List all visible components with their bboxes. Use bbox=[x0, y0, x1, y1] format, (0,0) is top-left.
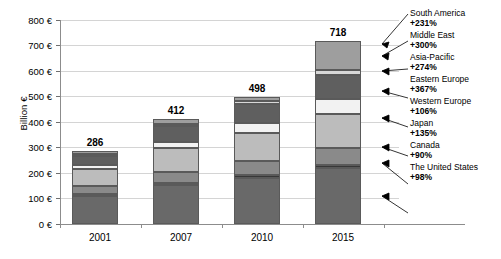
legend-growth: +367% bbox=[410, 84, 501, 94]
legend-label: Middle East bbox=[410, 30, 501, 40]
bar-segment[interactable] bbox=[315, 75, 361, 99]
y-tick-label-600: 600 € bbox=[8, 67, 52, 76]
bar-segment[interactable] bbox=[72, 156, 118, 165]
y-tick-label-200: 200 € bbox=[8, 169, 52, 178]
bar-segment[interactable] bbox=[153, 119, 199, 124]
bar-segment[interactable] bbox=[72, 194, 118, 196]
legend-item-eastern-europe: Eastern Europe +367% bbox=[410, 74, 501, 94]
bar-segment[interactable] bbox=[153, 185, 199, 224]
legend-label: Japan bbox=[410, 118, 501, 128]
legend-item-western-europe: Western Europe +106% bbox=[410, 96, 501, 116]
bar-segment[interactable] bbox=[315, 70, 361, 75]
bar-segment[interactable] bbox=[153, 148, 199, 171]
x-tick-mark bbox=[141, 224, 142, 228]
x-tick-mark bbox=[60, 224, 61, 228]
stacked-bar-chart: Billion € 800 € 700 € 600 € 500 € 400 € … bbox=[0, 0, 501, 259]
legend-item-middle-east: Middle East +300% bbox=[410, 30, 501, 50]
bar-segment[interactable] bbox=[72, 186, 118, 194]
bar-segment[interactable] bbox=[315, 165, 361, 169]
y-tick-label-0: 0 € bbox=[8, 220, 52, 229]
bar-segment[interactable] bbox=[153, 172, 199, 183]
x-label-2001: 2001 bbox=[65, 232, 135, 243]
bar-total-label-2010: 498 bbox=[234, 83, 280, 94]
y-tick-label-500: 500 € bbox=[8, 92, 52, 101]
legend-growth: +274% bbox=[410, 62, 501, 72]
x-tick-mark bbox=[222, 224, 223, 228]
legend-item-asia-pacific: Asia-Pacific +274% bbox=[410, 52, 501, 72]
legend-item-united-states: The United States +98% bbox=[410, 162, 501, 182]
bar-segment[interactable] bbox=[153, 183, 199, 185]
chart-legend: South America +231% Middle East +300% As… bbox=[410, 8, 501, 184]
legend-item-south-america: South America +231% bbox=[410, 8, 501, 28]
bar-segment[interactable] bbox=[234, 175, 280, 178]
bar-segment[interactable] bbox=[315, 168, 361, 224]
legend-growth: +300% bbox=[410, 40, 501, 50]
bar-segment[interactable] bbox=[153, 126, 199, 141]
legend-label: South America bbox=[410, 8, 501, 18]
x-tick-mark bbox=[384, 224, 385, 228]
y-tick-label-300: 300 € bbox=[8, 143, 52, 152]
bar-segment[interactable] bbox=[153, 124, 199, 127]
bar-segment[interactable] bbox=[72, 165, 118, 169]
x-axis-line bbox=[60, 224, 465, 225]
bar-total-label-2007: 412 bbox=[153, 105, 199, 116]
bar-segment[interactable] bbox=[234, 97, 280, 101]
bar-total-label-2001: 286 bbox=[72, 137, 118, 148]
y-tick-label-400: 400 € bbox=[8, 118, 52, 127]
legend-item-japan: Japan +135% bbox=[410, 118, 501, 138]
x-label-2015: 2015 bbox=[308, 232, 378, 243]
bar-segment[interactable] bbox=[72, 169, 118, 186]
legend-growth: +231% bbox=[410, 18, 501, 28]
legend-growth: +98% bbox=[410, 172, 501, 182]
bar-segment[interactable] bbox=[315, 41, 361, 70]
bar-segment[interactable] bbox=[234, 161, 280, 175]
y-tick-label-700: 700 € bbox=[8, 41, 52, 50]
plot-area: 286412498718 bbox=[61, 20, 399, 224]
legend-growth: +135% bbox=[410, 128, 501, 138]
legend-label: Canada bbox=[410, 140, 501, 150]
bar-segment[interactable] bbox=[234, 104, 280, 122]
bar-segment[interactable] bbox=[72, 151, 118, 154]
legend-label: Eastern Europe bbox=[410, 74, 501, 84]
bar-segment[interactable] bbox=[234, 123, 280, 134]
bar-segment[interactable] bbox=[315, 148, 361, 165]
y-tick-label-800: 800 € bbox=[8, 16, 52, 25]
x-label-2010: 2010 bbox=[227, 232, 297, 243]
x-tick-mark bbox=[303, 224, 304, 228]
x-label-2007: 2007 bbox=[146, 232, 216, 243]
legend-label: Asia-Pacific bbox=[410, 52, 501, 62]
bar-segment[interactable] bbox=[315, 99, 361, 114]
bar-segment[interactable] bbox=[234, 133, 280, 161]
legend-growth: +106% bbox=[410, 106, 501, 116]
bar-segment[interactable] bbox=[315, 114, 361, 147]
bar-segment[interactable] bbox=[234, 178, 280, 224]
legend-label: Western Europe bbox=[410, 96, 501, 106]
bar-total-label-2015: 718 bbox=[315, 27, 361, 38]
bar-segment[interactable] bbox=[234, 101, 280, 105]
legend-label: The United States bbox=[410, 162, 501, 172]
y-tick-label-100: 100 € bbox=[8, 194, 52, 203]
legend-growth: +90% bbox=[410, 150, 501, 160]
bar-segment[interactable] bbox=[153, 142, 199, 149]
bar-segment[interactable] bbox=[72, 196, 118, 224]
legend-item-canada: Canada +90% bbox=[410, 140, 501, 160]
